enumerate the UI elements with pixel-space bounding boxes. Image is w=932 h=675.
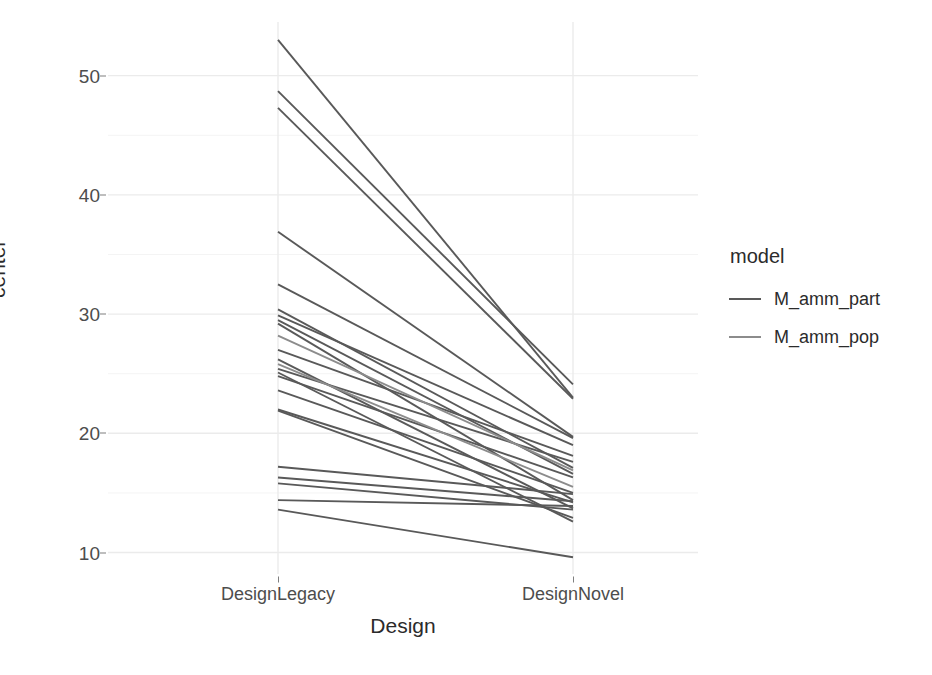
legend-item-label: M_amm_part — [774, 289, 880, 310]
x-tick-label-designnovel: DesignNovel — [522, 584, 624, 605]
y-axis-title: center — [0, 240, 10, 298]
chart-container: 1020304050 center DesignLegacy DesignNov… — [0, 0, 932, 675]
y-tick-label: 10 — [56, 543, 100, 562]
legend-title: model — [728, 245, 918, 268]
legend-item-m-amm-part[interactable]: M_amm_part — [728, 284, 918, 314]
y-tick-mark — [100, 314, 106, 315]
data-line — [278, 324, 573, 500]
data-line — [278, 510, 573, 558]
x-tick-label-designlegacy: DesignLegacy — [221, 584, 335, 605]
y-tick-label: 50 — [56, 66, 100, 85]
legend-item-label: M_amm_pop — [774, 327, 879, 348]
y-tick-mark — [100, 552, 106, 553]
y-tick-label: 40 — [56, 185, 100, 204]
legend-line-key-icon — [728, 290, 762, 308]
x-axis-title: Design — [370, 614, 435, 638]
y-axis: 1020304050 — [40, 22, 100, 574]
y-tick-mark — [100, 194, 106, 195]
data-line — [278, 309, 573, 468]
plot-panel — [108, 22, 698, 574]
x-tick-mark — [573, 577, 574, 583]
legend: model M_amm_part M_amm_pop — [728, 245, 918, 360]
y-tick-label: 30 — [56, 305, 100, 324]
y-tick-mark — [100, 75, 106, 76]
y-tick-label: 20 — [56, 424, 100, 443]
legend-item-m-amm-pop[interactable]: M_amm_pop — [728, 322, 918, 352]
y-tick-mark — [100, 433, 106, 434]
plot-lines-svg — [108, 22, 698, 574]
x-tick-mark — [278, 577, 279, 583]
legend-line-key-icon — [728, 328, 762, 346]
